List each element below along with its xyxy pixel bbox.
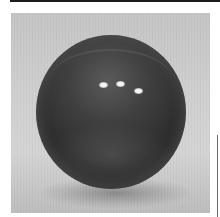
right-border-line [217,135,218,217]
photo [11,13,210,213]
top-border-line [10,0,220,2]
sphere-rim-reflection [50,49,172,111]
specular-highlight [134,88,143,94]
sphere [36,35,186,189]
specular-highlight [99,82,108,88]
specular-highlight [116,81,125,87]
